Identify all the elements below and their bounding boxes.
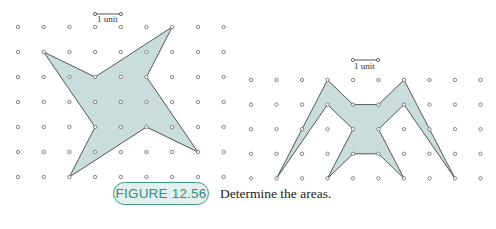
grid-dot bbox=[402, 103, 405, 106]
grid-dot bbox=[42, 125, 45, 128]
grid-dot bbox=[428, 152, 431, 155]
grid-dot bbox=[351, 128, 354, 131]
grid-dot bbox=[249, 177, 252, 180]
grid-dot bbox=[119, 175, 122, 178]
grid-dot bbox=[171, 75, 174, 78]
grid-dot bbox=[402, 128, 405, 131]
grid-dot bbox=[428, 177, 431, 180]
right-scale-label: 1 unit bbox=[354, 61, 375, 71]
grid-dot bbox=[68, 50, 71, 53]
grid-dot bbox=[119, 50, 122, 53]
grid-dot bbox=[275, 152, 278, 155]
grid-dot bbox=[326, 152, 329, 155]
grid-dot bbox=[249, 152, 252, 155]
left-scale-label: 1 unit bbox=[97, 14, 118, 24]
grid-dot bbox=[326, 177, 329, 180]
grid-dot bbox=[16, 175, 19, 178]
grid-dot bbox=[171, 100, 174, 103]
grid-dot bbox=[119, 150, 122, 153]
grid-dot bbox=[145, 125, 148, 128]
grid-dot bbox=[42, 150, 45, 153]
grid-dot bbox=[16, 50, 19, 53]
grid-dot bbox=[42, 25, 45, 28]
grid-dot bbox=[300, 152, 303, 155]
grid-dot bbox=[351, 103, 354, 106]
grid-dot bbox=[377, 78, 380, 81]
grid-dot bbox=[145, 100, 148, 103]
grid-dot bbox=[68, 125, 71, 128]
grid-dot bbox=[377, 177, 380, 180]
grid-dot bbox=[68, 25, 71, 28]
grid-dot bbox=[16, 125, 19, 128]
grid-dot bbox=[326, 128, 329, 131]
grid-dot bbox=[249, 103, 252, 106]
grid-dot bbox=[68, 100, 71, 103]
grid-dot bbox=[119, 100, 122, 103]
grid-dot bbox=[222, 175, 225, 178]
grid-dot bbox=[196, 50, 199, 53]
grid-dot bbox=[453, 103, 456, 106]
grid-dot bbox=[428, 128, 431, 131]
grid-dot bbox=[402, 177, 405, 180]
grid-dot bbox=[171, 150, 174, 153]
left-dot-grid-figure bbox=[16, 12, 225, 178]
grid-dot bbox=[300, 128, 303, 131]
grid-dot bbox=[196, 175, 199, 178]
grid-dot bbox=[479, 177, 482, 180]
grid-dot bbox=[42, 50, 45, 53]
grid-dot bbox=[196, 125, 199, 128]
grid-dot bbox=[377, 152, 380, 155]
grid-dot bbox=[402, 78, 405, 81]
grid-dot bbox=[171, 25, 174, 28]
grid-dot bbox=[351, 177, 354, 180]
grid-dot bbox=[453, 78, 456, 81]
grid-dot bbox=[453, 128, 456, 131]
grid-dot bbox=[326, 103, 329, 106]
grid-dot bbox=[196, 100, 199, 103]
grid-dot bbox=[16, 150, 19, 153]
grid-dot bbox=[300, 78, 303, 81]
grid-dot bbox=[300, 177, 303, 180]
grid-dot bbox=[171, 125, 174, 128]
grid-dot bbox=[93, 25, 96, 28]
grid-dot bbox=[196, 75, 199, 78]
grid-dot bbox=[145, 25, 148, 28]
grid-dot bbox=[16, 100, 19, 103]
grid-dot bbox=[42, 100, 45, 103]
grid-dot bbox=[145, 50, 148, 53]
grid-dot bbox=[119, 25, 122, 28]
grid-dot bbox=[275, 78, 278, 81]
grid-dot bbox=[68, 175, 71, 178]
grid-dot bbox=[93, 175, 96, 178]
grid-dot bbox=[222, 100, 225, 103]
grid-dot bbox=[275, 103, 278, 106]
grid-dot bbox=[402, 152, 405, 155]
figure-label: FIGURE 12.56 bbox=[116, 186, 207, 201]
grid-dot bbox=[93, 125, 96, 128]
grid-dot bbox=[196, 25, 199, 28]
scale-bar-endpoint bbox=[119, 12, 122, 15]
grid-dot bbox=[222, 25, 225, 28]
grid-dot bbox=[479, 78, 482, 81]
figure-caption: Determine the areas. bbox=[220, 186, 331, 202]
grid-dot bbox=[351, 78, 354, 81]
grid-dot bbox=[42, 75, 45, 78]
grid-dot bbox=[275, 128, 278, 131]
grid-dot bbox=[222, 50, 225, 53]
grid-dot bbox=[249, 128, 252, 131]
scale-bar-endpoint bbox=[376, 58, 379, 61]
grid-dot bbox=[479, 152, 482, 155]
grid-dot bbox=[222, 75, 225, 78]
grid-dot bbox=[119, 75, 122, 78]
grid-dot bbox=[222, 125, 225, 128]
grid-dot bbox=[300, 103, 303, 106]
grid-dot bbox=[196, 150, 199, 153]
grid-dot bbox=[479, 128, 482, 131]
grid-dot bbox=[326, 78, 329, 81]
grid-dot bbox=[93, 75, 96, 78]
grid-dot bbox=[222, 150, 225, 153]
grid-dot bbox=[453, 152, 456, 155]
grid-dot bbox=[377, 103, 380, 106]
grid-dot bbox=[428, 103, 431, 106]
grid-dot bbox=[93, 150, 96, 153]
